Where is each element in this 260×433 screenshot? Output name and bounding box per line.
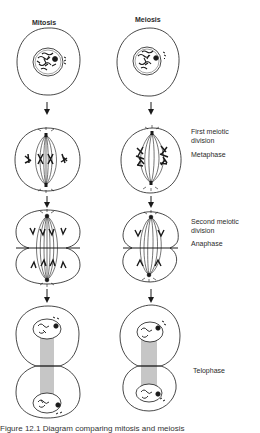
- mitosis-interphase-cell: [17, 28, 80, 95]
- figure-caption-partial: Figure 12.1 Diagram comparing mitosis an…: [0, 424, 260, 433]
- mitosis-telophase-cell: [16, 306, 80, 418]
- meiosis-anaphase-cell: [123, 210, 178, 282]
- mitosis-anaphase-cell: [16, 209, 80, 287]
- cell-division-diagram: [0, 0, 260, 433]
- mitosis-metaphase-cell: [15, 127, 80, 193]
- meiosis-metaphase-cell: [121, 125, 181, 193]
- meiosis-telophase-cell: [120, 305, 180, 411]
- meiosis-interphase-cell: [117, 28, 179, 96]
